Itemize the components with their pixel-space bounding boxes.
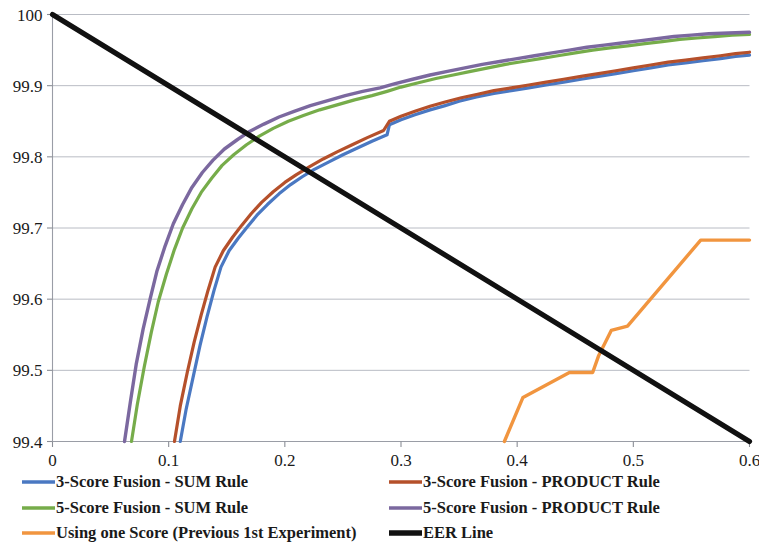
- legend-entry: 3-Score Fusion - PRODUCT Rule: [389, 472, 660, 491]
- x-tick-label: 0.4: [507, 451, 529, 470]
- series-line-2: [131, 34, 749, 441]
- legend-label: 5-Score Fusion - PRODUCT Rule: [423, 498, 660, 517]
- y-tick-label: 99.9: [13, 77, 43, 96]
- y-axis-tick-labels: 99.499.599.699.799.899.9100: [13, 6, 43, 452]
- legend-label: 5-Score Fusion - SUM Rule: [56, 498, 248, 517]
- tick-marks: [47, 15, 750, 448]
- roc-chart: 00.10.20.30.40.50.6 99.499.599.699.799.8…: [0, 0, 759, 559]
- x-tick-label: 0.2: [274, 451, 295, 470]
- legend-entry: 3-Score Fusion - SUM Rule: [22, 472, 248, 491]
- x-tick-label: 0.3: [390, 451, 411, 470]
- legend-entry: EER Line: [389, 523, 493, 542]
- series-line-0: [180, 55, 749, 441]
- legend-label: 3-Score Fusion - SUM Rule: [56, 472, 248, 491]
- x-tick-label: 0.6: [739, 451, 759, 470]
- legend-label: Using one Score (Previous 1st Experiment…: [56, 523, 357, 542]
- x-tick-label: 0.5: [623, 451, 644, 470]
- chart-canvas: 00.10.20.30.40.50.6 99.499.599.699.799.8…: [0, 0, 759, 559]
- x-axis-tick-labels: 00.10.20.30.40.50.6: [48, 451, 759, 470]
- legend-label: EER Line: [423, 523, 493, 542]
- legend-entry: Using one Score (Previous 1st Experiment…: [22, 523, 357, 542]
- y-tick-label: 99.5: [13, 361, 43, 380]
- series-line-1: [174, 52, 749, 441]
- series-line-3: [125, 32, 750, 441]
- y-tick-label: 99.7: [13, 219, 43, 238]
- legend-entry: 5-Score Fusion - PRODUCT Rule: [389, 498, 660, 517]
- chart-legend: 3-Score Fusion - SUM Rule3-Score Fusion …: [22, 472, 660, 542]
- y-tick-label: 99.4: [13, 433, 43, 452]
- y-tick-label: 99.8: [13, 148, 43, 167]
- x-tick-label: 0: [48, 451, 57, 470]
- x-tick-label: 0.1: [158, 451, 179, 470]
- series-line-4: [504, 240, 749, 441]
- legend-label: 3-Score Fusion - PRODUCT Rule: [423, 472, 660, 491]
- legend-entry: 5-Score Fusion - SUM Rule: [22, 498, 248, 517]
- y-tick-label: 100: [17, 6, 43, 25]
- y-tick-label: 99.6: [13, 290, 43, 309]
